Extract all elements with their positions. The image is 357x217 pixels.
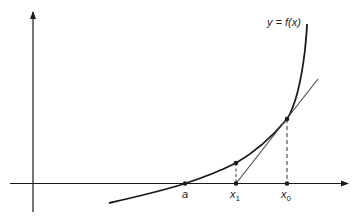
- point-x0: [285, 181, 290, 186]
- point-f-x0: [285, 117, 290, 122]
- label-x1-sub: 1: [236, 194, 241, 203]
- label-a: a: [182, 188, 188, 200]
- label-x0: x0: [280, 188, 292, 203]
- function-curve: [109, 24, 307, 203]
- point-f-x1: [234, 161, 239, 166]
- label-x1: x1: [229, 188, 241, 203]
- curve-label: y = f(x): [266, 16, 301, 28]
- point-a: [183, 181, 188, 186]
- point-x1: [234, 181, 239, 186]
- label-x0-sub: 0: [287, 194, 292, 203]
- tangent-line: [236, 79, 318, 184]
- newton-method-diagram: y = f(x) a x1 x0: [0, 0, 357, 217]
